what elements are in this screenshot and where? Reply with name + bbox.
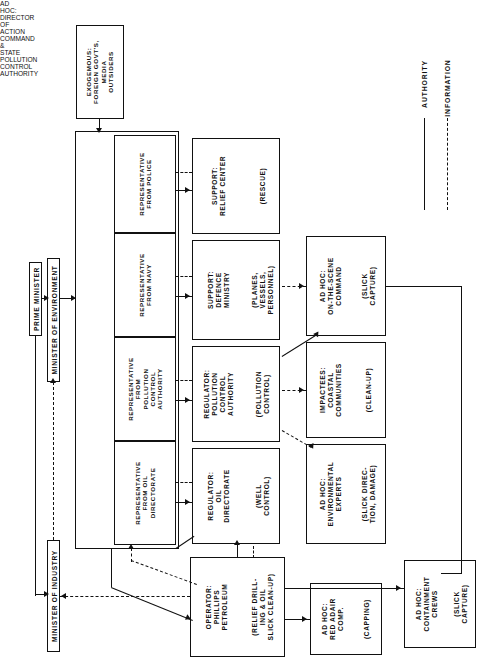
connector-relief-police-dashed xyxy=(176,172,192,173)
arrowhead-operator-redadair xyxy=(302,616,307,622)
node-regulator-pollution-control-authority[interactable]: REGULATOR:POLLUTIONCONTROLAUTHORITY (POL… xyxy=(192,346,280,442)
node-regoil-title: REGULATOR:OILDIRECTORATE xyxy=(207,469,231,523)
node-exogenous-label: EXOGEMOUS:FOREIGN GOVT'S,MEDIAOUTSIDERS xyxy=(85,40,114,104)
node-prime-minister-label: PRIME MINISTER xyxy=(32,267,39,331)
node-rep-police-label: REPRESENTATIVEFROM POLICE xyxy=(138,152,153,216)
connector-director-operator xyxy=(111,587,193,621)
node-environmental-experts[interactable]: AD HOC:ENVIRONMENTALEXPERTS (SLICK DIREC… xyxy=(306,444,386,544)
connector-operator-repoil-dashed xyxy=(131,560,197,585)
node-rep-police[interactable]: REPRESENTATIVEFROM POLICE xyxy=(114,135,176,233)
node-rep-oil-directorate[interactable]: REPRESENTATIVEFROM OILDIRECTORATE xyxy=(114,441,176,545)
node-containment-title: AD HOC:CONTAINMENTCREWS xyxy=(415,577,439,632)
arrowhead-industry-env xyxy=(50,378,56,383)
node-operator-phillips-petroleum[interactable]: OPERATOR:PHILLIPSPETROLEUM (RELIEF DRILL… xyxy=(190,557,285,657)
node-redadair-title: AD HOC:RED ADAIRCOMP. xyxy=(321,598,345,640)
connector-onscene-containment xyxy=(441,573,462,574)
connector-operator-containment xyxy=(285,588,404,589)
node-redadair-paren: (CAPPING) xyxy=(363,599,371,639)
arrowhead-navy-defence xyxy=(185,293,190,299)
arrowhead-regpca-impactees xyxy=(299,387,304,393)
arrowhead-pm-industry xyxy=(44,591,49,597)
arrowhead-operator-regoil xyxy=(234,540,240,545)
node-impactees-coastal-communities[interactable]: IMPACTEES:COASTALCOMMUNITIES (CLEAN-UP) xyxy=(306,342,386,438)
node-rep-pollution-control-authority[interactable]: REPRESENTATIVEFROMPOLLUTIONCONTROLAUTHOR… xyxy=(114,337,176,441)
node-defence-paren: (PLANES,VESSELS,PERSONNEL) xyxy=(251,265,275,314)
connector-director-down xyxy=(111,549,112,587)
node-regpca-title: REGULATOR:POLLUTIONCONTROLAUTHORITY xyxy=(203,369,235,418)
node-rep-oil-label: REPRESENTATIVEFROM OILDIRECTORATE xyxy=(134,461,156,525)
arrowhead-operator-containment xyxy=(396,585,401,591)
node-rep-navy-label: REPRESENTATIVEFROM NAVY xyxy=(138,253,153,317)
node-minister-industry-label: MINISTER OF INDUSTRY xyxy=(50,550,57,642)
node-prime-minister[interactable]: PRIME MINISTER xyxy=(29,262,42,336)
arrowhead-repoil-regoil xyxy=(185,499,190,505)
node-envexp-paren: (SLICK DIREC-TION, DAMAGE) xyxy=(361,465,377,524)
node-containment-crews[interactable]: AD HOC:CONTAINMENTCREWS (SLICKCAPTURE) xyxy=(404,560,476,648)
node-impactees-paren: (CLEAN-UP) xyxy=(365,368,373,412)
connector-repoil-feedback-dashed xyxy=(131,548,132,562)
arrowhead-police-relief xyxy=(185,187,190,193)
node-relief-title: SUPPORT:RELIEF CENTER xyxy=(211,156,227,216)
node-red-adair-comp[interactable]: AD HOC:RED ADAIRCOMP. (CAPPING) xyxy=(310,583,382,655)
connector-env-industry-dashed xyxy=(53,382,54,540)
connector-pm-spine xyxy=(35,336,36,596)
node-regoil-paren: (WELLCONTROL) xyxy=(255,476,271,516)
node-operator-title: OPERATOR:PHILLIPSPETROLEUM xyxy=(205,584,229,631)
arrowhead-operator-industry xyxy=(61,593,66,599)
node-support-defence-ministry[interactable]: SUPPORT:DEFENCEMINISTRY (PLANES,VESSELS,… xyxy=(192,240,280,340)
node-minister-environment[interactable]: MINISTER OF ENVIRONMENT xyxy=(47,258,60,382)
node-onscene-title: AD HOC:ON-THE-SCENECOMMAND xyxy=(319,257,343,314)
node-defence-title: SUPPORT:DEFENCEMINISTRY xyxy=(207,271,231,309)
node-containment-paren: (SLICKCAPTURE) xyxy=(453,585,469,624)
connector-operator-regoil xyxy=(237,544,238,557)
node-rep-navy[interactable]: REPRESENTATIVEFROM NAVY xyxy=(114,233,176,337)
connector-defence-navy-dashed xyxy=(176,276,192,277)
legend-authority-line xyxy=(424,118,425,210)
legend-information-label: INFORMATION xyxy=(444,59,451,116)
connector-regpca-reppca-dashed xyxy=(176,380,192,381)
node-regpca-paren: (POLLUTIONCONTROL) xyxy=(255,371,271,417)
node-onscene-paren: (SLICKCAPTURE) xyxy=(361,267,377,306)
connector-onscene-right xyxy=(386,286,462,287)
connector-operator-regoil-dashed xyxy=(253,546,254,558)
node-envexp-title: AD HOC:ENVIRONMENTALEXPERTS xyxy=(319,462,343,527)
connector-onscene-down xyxy=(461,286,462,574)
arrowhead-operator-repoil xyxy=(128,544,134,549)
legend-authority-label: AUTHORITY xyxy=(421,60,428,108)
arrowhead-defence-onscene xyxy=(299,283,304,289)
connector-regoil-repoil-dashed xyxy=(176,482,192,483)
node-regulator-oil-directorate[interactable]: REGULATOR:OILDIRECTORATE (WELLCONTROL) xyxy=(192,448,280,544)
node-support-relief-center[interactable]: SUPPORT:RELIEF CENTER (RESCUE) xyxy=(192,138,280,234)
node-rep-pca-label: REPRESENTATIVEFROMPOLLUTIONCONTROLAUTHOR… xyxy=(127,357,164,421)
node-on-the-scene-command[interactable]: AD HOC:ON-THE-SCENECOMMAND (SLICKCAPTURE… xyxy=(306,236,386,336)
arrowhead-pm-env xyxy=(44,295,49,301)
arrowhead-reppca-regpca xyxy=(185,397,190,403)
node-minister-environment-label: MINISTER OF ENVIRONMENT xyxy=(50,265,57,374)
node-relief-paren: (RESCUE) xyxy=(259,168,267,205)
node-impactees-title: IMPACTEES:COASTALCOMMUNITIES xyxy=(319,363,343,417)
node-exogenous[interactable]: EXOGEMOUS:FOREIGN GOVT'S,MEDIAOUTSIDERS xyxy=(76,25,124,119)
connector-operator-industry-dashed xyxy=(60,596,190,597)
node-operator-paren: (RELIEF DRILL-ING & OILSLICK CLEAN-UP) xyxy=(251,574,275,641)
legend-information-line xyxy=(447,118,448,210)
